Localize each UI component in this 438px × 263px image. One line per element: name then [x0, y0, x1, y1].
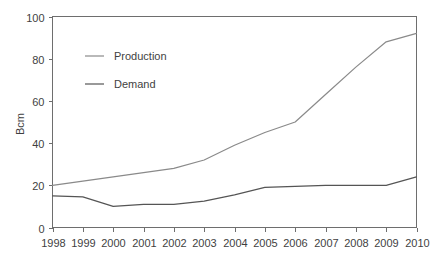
legend-label-production: Production: [114, 50, 167, 62]
y-axis-title: Bcm: [14, 113, 26, 135]
x-tick-label: 2006: [283, 237, 307, 249]
chart-canvas: 020406080100 199819992000200120022003200…: [0, 0, 438, 263]
y-tick-label: 100: [26, 12, 44, 24]
chart-background: [0, 0, 438, 263]
x-tick-label: 2000: [101, 237, 125, 249]
line-chart: 020406080100 199819992000200120022003200…: [0, 0, 438, 263]
x-tick-label: 2001: [132, 237, 156, 249]
legend-label-demand: Demand: [114, 78, 156, 90]
y-tick-label: 80: [32, 54, 44, 66]
x-tick-label: 2008: [344, 237, 368, 249]
x-tick-label: 2003: [192, 237, 216, 249]
x-tick-label: 2004: [223, 237, 247, 249]
y-tick-label: 60: [32, 96, 44, 108]
y-tick-label: 20: [32, 180, 44, 192]
x-tick-label: 2002: [162, 237, 186, 249]
x-tick-label: 2007: [314, 237, 338, 249]
x-tick-label: 2005: [253, 237, 277, 249]
x-tick-label: 2009: [374, 237, 398, 249]
x-tick-label: 2010: [405, 237, 429, 249]
x-tick-label: 1999: [71, 237, 95, 249]
x-tick-label: 1998: [41, 237, 65, 249]
y-tick-label: 40: [32, 138, 44, 150]
y-tick-label: 0: [38, 223, 44, 235]
